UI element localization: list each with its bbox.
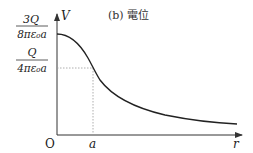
svg-text:Q: Q bbox=[27, 46, 36, 59]
chart-title: (b) 電位 bbox=[108, 8, 149, 22]
svg-text:3Q: 3Q bbox=[23, 13, 39, 26]
y-tick-surface: Q 4πε₀a bbox=[16, 46, 48, 74]
x-axis-label: r bbox=[233, 137, 240, 151]
origin-label: O bbox=[45, 137, 55, 151]
potential-graph: V r O a (b) 電位 3Q 8πε₀a Q 4πε₀a bbox=[0, 0, 253, 153]
x-tick-a: a bbox=[89, 137, 96, 151]
svg-text:8πε₀a: 8πε₀a bbox=[17, 28, 47, 40]
potential-curve bbox=[57, 34, 237, 124]
y-tick-max: 3Q 8πε₀a bbox=[16, 13, 48, 40]
svg-text:4πε₀a: 4πε₀a bbox=[16, 62, 47, 74]
y-axis-label: V bbox=[61, 9, 71, 23]
